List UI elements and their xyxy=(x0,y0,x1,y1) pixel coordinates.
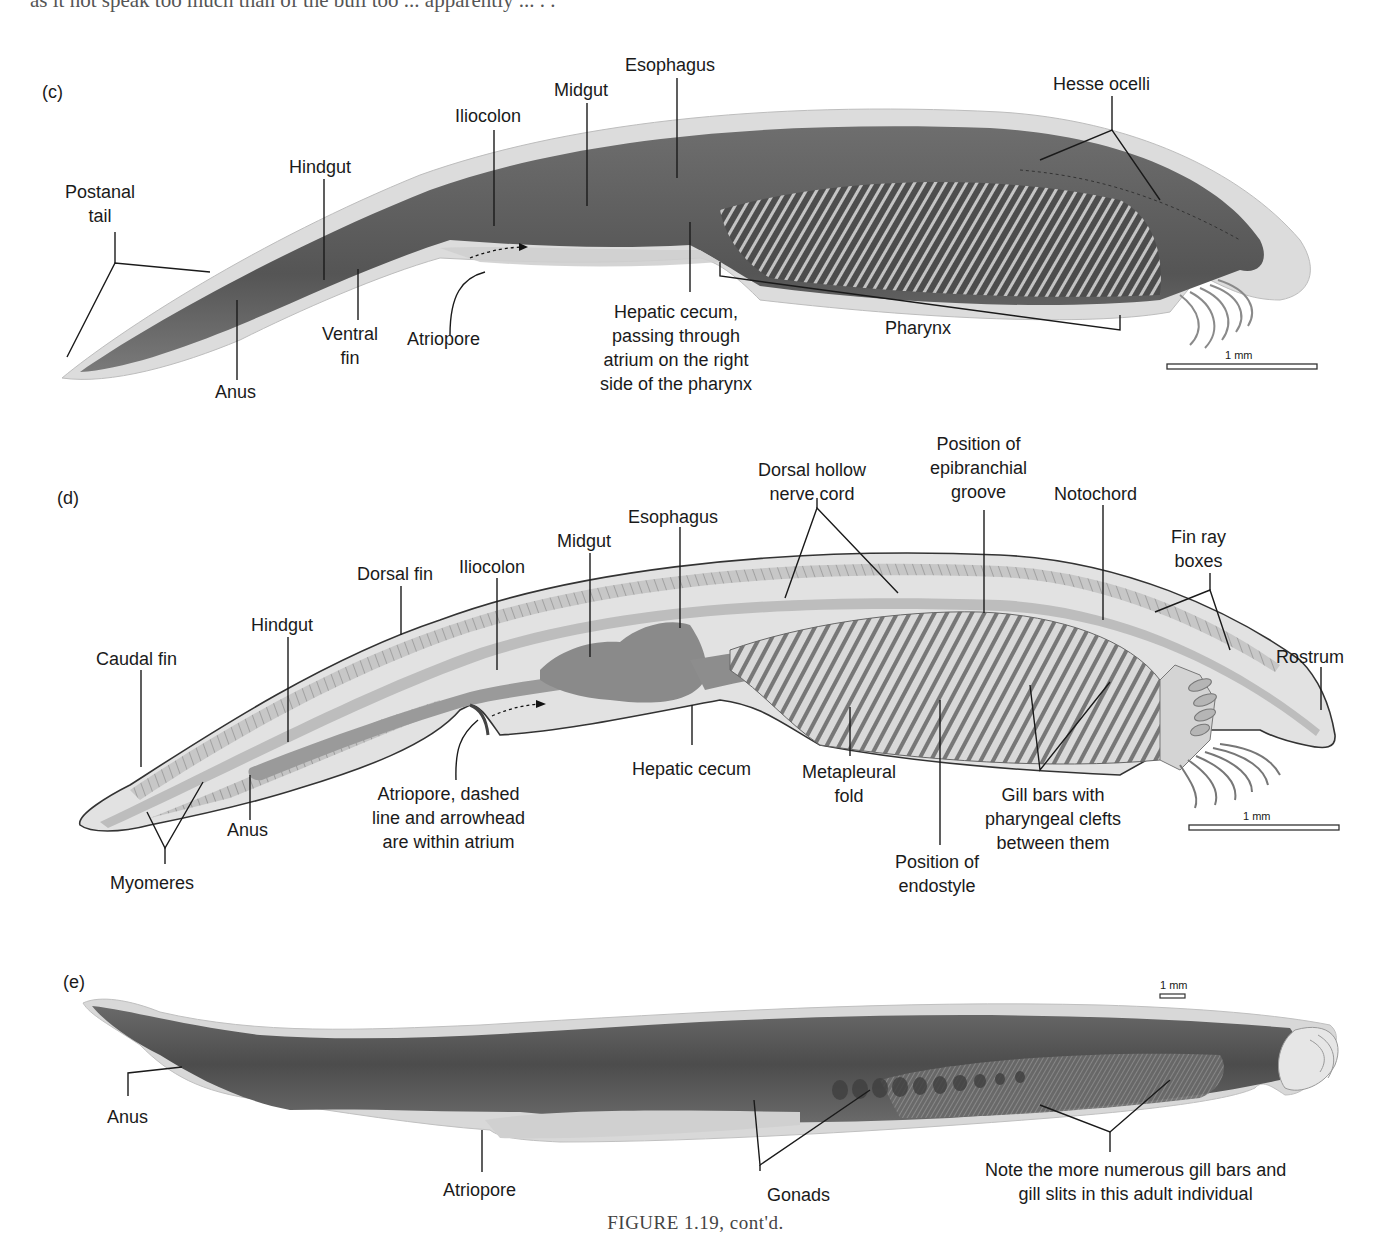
panel-d-drawing xyxy=(80,553,1335,831)
label-dorsal-fin: Dorsal fin xyxy=(357,562,433,586)
label-hepatic-cecum-d: Hepatic cecum xyxy=(632,757,751,781)
panel-d-scale-bar xyxy=(1189,825,1339,830)
panel-c-letter: (c) xyxy=(42,82,63,103)
label-esophagus-d: Esophagus xyxy=(628,505,718,529)
label-gonads: Gonads xyxy=(767,1183,830,1207)
label-midgut-d: Midgut xyxy=(557,529,611,553)
label-hindgut-c: Hindgut xyxy=(289,155,351,179)
panel-d-scale-label: 1 mm xyxy=(1243,810,1271,822)
label-atriopore-c: Atriopore xyxy=(407,327,480,351)
panel-e-letter: (e) xyxy=(63,972,85,993)
label-fin-ray-boxes: Fin ray boxes xyxy=(1171,525,1226,573)
label-atriopore-d: Atriopore, dashed line and arrowhead are… xyxy=(372,782,525,854)
label-caudal-fin: Caudal fin xyxy=(96,647,177,671)
label-anus-c: Anus xyxy=(215,380,256,404)
label-atriopore-e: Atriopore xyxy=(443,1178,516,1202)
label-midgut-c: Midgut xyxy=(554,78,608,102)
label-hepatic-cecum-c: Hepatic cecum, passing through atrium on… xyxy=(600,300,752,396)
label-ventral-fin: Ventral fin xyxy=(322,322,378,370)
label-dorsal-hollow-nerve-cord: Dorsal hollow nerve cord xyxy=(758,458,866,506)
label-myomeres: Myomeres xyxy=(110,871,194,895)
label-esophagus-c: Esophagus xyxy=(625,53,715,77)
label-pharynx: Pharynx xyxy=(885,316,951,340)
label-anus-e: Anus xyxy=(107,1105,148,1129)
panel-d-letter: (d) xyxy=(57,488,79,509)
label-endostyle: Position of endostyle xyxy=(895,850,979,898)
label-rostrum: Rostrum xyxy=(1276,645,1344,669)
panel-c-scale-label: 1 mm xyxy=(1225,349,1253,361)
label-postanal-tail: Postanal tail xyxy=(65,180,135,228)
panel-e-specimen xyxy=(83,999,1338,1142)
label-notochord: Notochord xyxy=(1054,482,1137,506)
panel-e-scale-bar xyxy=(1160,994,1185,998)
figure-caption: FIGURE 1.19, cont'd. xyxy=(0,1212,1391,1234)
label-hesse-ocelli: Hesse ocelli xyxy=(1053,72,1150,96)
label-iliocolon-c: Iliocolon xyxy=(455,104,521,128)
panel-e-scale-label: 1 mm xyxy=(1160,979,1188,991)
label-metapleural-fold: Metapleural fold xyxy=(802,760,896,808)
panel-c-scale-bar xyxy=(1167,364,1317,369)
label-gill-bars: Gill bars with pharyngeal clefts between… xyxy=(985,783,1121,855)
label-gill-note: Note the more numerous gill bars and gil… xyxy=(985,1158,1286,1206)
label-epibranchial-groove: Position of epibranchial groove xyxy=(930,432,1027,504)
label-hindgut-d: Hindgut xyxy=(251,613,313,637)
figure-artwork xyxy=(0,0,1391,1254)
label-anus-d: Anus xyxy=(227,818,268,842)
label-iliocolon-d: Iliocolon xyxy=(459,555,525,579)
